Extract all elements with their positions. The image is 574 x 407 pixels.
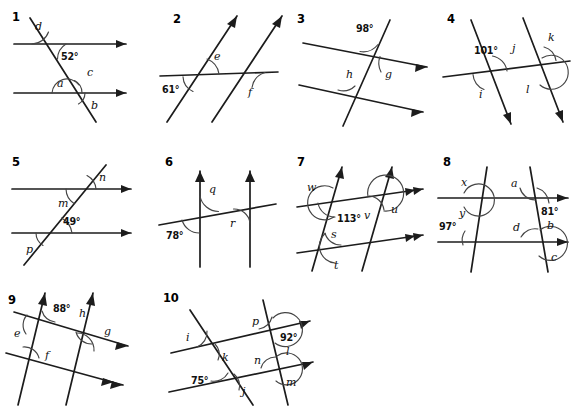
problem-9: 9 88° h g e f xyxy=(0,285,160,407)
label-98deg: 98° xyxy=(356,23,373,34)
problem-7-number: 7 xyxy=(297,157,305,169)
arrowhead-transversal-left xyxy=(335,167,344,179)
angle-arc-v xyxy=(369,196,384,210)
problem-5: 5 n m 49° p xyxy=(0,145,145,285)
label-a: a xyxy=(57,77,64,90)
label-c: c xyxy=(87,66,93,79)
line-parallel-bottom xyxy=(299,85,423,112)
problem-10: 10 p 92° i k n l xyxy=(155,285,345,407)
problem-2-number: 2 xyxy=(173,14,181,26)
problem-4-number: 4 xyxy=(447,14,455,26)
arrowhead-right-up xyxy=(245,171,255,182)
arrowhead-upper-right xyxy=(557,194,568,202)
problem-7: 7 w 113° v u xyxy=(285,145,430,285)
label-113deg: 113° xyxy=(337,213,361,224)
label-e: e xyxy=(214,50,221,63)
angle-arc-n xyxy=(261,357,276,368)
angle-arc-k xyxy=(544,47,556,61)
problem-2: 2 e 61° f xyxy=(145,0,290,140)
label-l: l xyxy=(286,345,290,358)
arrowhead-left-up xyxy=(227,16,237,28)
label-m: m xyxy=(58,197,68,210)
label-n: n xyxy=(254,354,261,367)
problem-1-figure: d 52° a c b xyxy=(0,0,145,140)
line-transversal-left xyxy=(471,167,487,272)
label-y: y xyxy=(458,207,466,220)
label-f: f xyxy=(44,349,51,362)
label-g: g xyxy=(104,325,111,338)
problem-3-figure: 98° h g xyxy=(285,0,430,140)
label-u: u xyxy=(391,203,398,216)
label-c: c xyxy=(551,251,557,264)
arrowhead-top-right xyxy=(116,40,126,48)
label-e: e xyxy=(14,327,21,340)
arrowhead-left-up xyxy=(195,171,205,182)
label-92deg: 92° xyxy=(280,332,297,343)
problem-9-number: 9 xyxy=(8,295,16,307)
label-k: k xyxy=(222,351,229,364)
label-101deg: 101° xyxy=(474,45,498,56)
label-m: m xyxy=(286,376,296,389)
label-i: i xyxy=(479,88,483,101)
label-75deg: 75° xyxy=(191,375,208,386)
problem-5-number: 5 xyxy=(12,157,20,169)
angle-arc-97 xyxy=(462,231,465,245)
arrowhead-right-up xyxy=(272,16,282,28)
label-q: q xyxy=(209,183,216,196)
label-52deg: 52° xyxy=(61,51,78,62)
label-78deg: 78° xyxy=(166,230,183,241)
arrowhead-top-right xyxy=(121,185,131,193)
label-d: d xyxy=(513,221,520,234)
line-transversal xyxy=(24,165,106,265)
label-r: r xyxy=(230,217,236,230)
problem-6: 6 q r 78° xyxy=(145,145,290,285)
problem-8-number: 8 xyxy=(443,157,451,169)
angle-arc-xy xyxy=(464,184,494,216)
problem-1-number: 1 xyxy=(12,12,20,24)
arrowhead-transversal-right xyxy=(385,167,394,179)
arrowhead-transversal-left xyxy=(38,293,47,306)
label-81deg: 81° xyxy=(541,206,558,217)
arrowhead-left-down xyxy=(503,112,511,124)
label-49deg: 49° xyxy=(63,216,80,227)
problem-10-figure: p 92° i k n l 75° j m xyxy=(155,285,345,407)
line-parallel-top xyxy=(303,43,427,67)
label-w: w xyxy=(307,181,317,194)
problem-1: 1 d 52° a c b xyxy=(0,0,145,140)
label-p: p xyxy=(252,315,259,328)
angle-arc-98 xyxy=(360,45,378,52)
label-v: v xyxy=(364,209,371,222)
label-l: l xyxy=(526,83,530,96)
label-s: s xyxy=(331,228,337,241)
problem-6-number: 6 xyxy=(165,157,173,169)
angle-arc-e xyxy=(23,315,27,334)
worksheet-sheet: 1 d 52° a c b 2 xyxy=(0,0,574,407)
label-j: j xyxy=(509,42,516,55)
label-b: b xyxy=(91,99,98,112)
angle-arc-h xyxy=(338,86,355,91)
label-t: t xyxy=(334,259,339,272)
line-parallel-right xyxy=(523,18,563,122)
problem-4: 4 101° j k i l xyxy=(425,0,574,140)
angle-arc-w xyxy=(318,203,335,217)
label-k: k xyxy=(548,31,555,44)
label-61deg: 61° xyxy=(162,84,179,95)
label-p: p xyxy=(26,243,33,256)
angle-arc-q xyxy=(200,196,219,212)
arrowhead-bottom-right xyxy=(116,89,126,97)
arrowhead-transversal-right xyxy=(86,293,95,306)
label-b: b xyxy=(547,219,554,232)
arrowhead-lower xyxy=(302,362,313,370)
label-97deg: 97° xyxy=(439,221,456,232)
arrowhead-right-down xyxy=(555,110,563,122)
problem-7-figure: w 113° v u s t xyxy=(285,145,430,285)
label-f: f xyxy=(247,86,254,99)
angle-arc-d xyxy=(521,229,538,237)
label-h: h xyxy=(79,307,86,320)
line-parallel-right xyxy=(212,16,282,122)
arrowhead-bottom-right xyxy=(121,229,131,237)
line-transversal xyxy=(159,204,276,225)
label-g: g xyxy=(385,68,392,81)
problem-9-figure: 88° h g e f xyxy=(0,285,160,407)
angle-arc-f xyxy=(252,73,265,88)
